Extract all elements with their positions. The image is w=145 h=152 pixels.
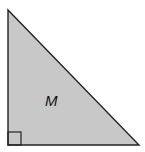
triangle-label: M (45, 92, 58, 109)
triangle-diagram: M (0, 0, 145, 152)
right-triangle (8, 10, 139, 145)
